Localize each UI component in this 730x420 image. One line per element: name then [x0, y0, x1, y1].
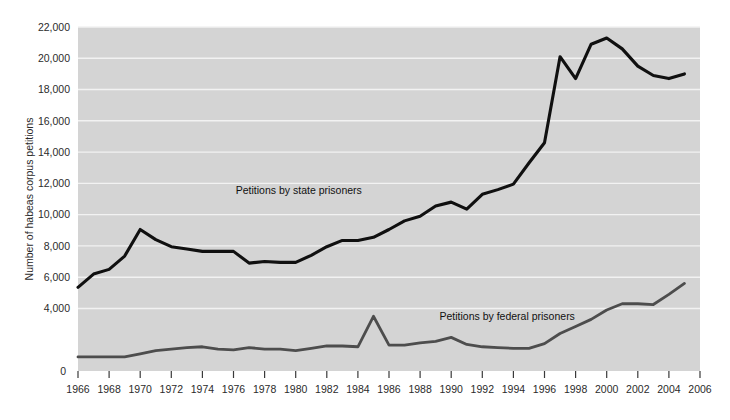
- y-tick-label-zero: 0: [60, 365, 66, 377]
- x-tick-label: 1966: [66, 383, 90, 395]
- line-chart: 4,0006,0008,00010,00012,00014,00016,0001…: [0, 0, 730, 420]
- y-tick-label: 18,000: [38, 83, 70, 95]
- y-axis-title: Number of habeas corpus petitions: [23, 118, 35, 281]
- y-axis-title: Number of habeas corpus petitions: [23, 118, 35, 281]
- x-tick-label: 1976: [222, 383, 246, 395]
- plot-area-background: [78, 27, 700, 371]
- x-tick-label: 1982: [315, 383, 339, 395]
- x-tick-label: 1992: [471, 383, 495, 395]
- x-tick-label: 1968: [97, 383, 121, 395]
- x-tick-label: 2006: [688, 383, 712, 395]
- x-tick-label: 1974: [191, 383, 215, 395]
- x-tick-label: 1984: [346, 383, 370, 395]
- series-label: Petitions by federal prisoners: [439, 310, 574, 322]
- y-tick-label: 12,000: [38, 177, 70, 189]
- x-tick-label: 1994: [502, 383, 526, 395]
- x-axis-ticks: [78, 371, 700, 378]
- x-tick-label: 1988: [408, 383, 432, 395]
- series-label: Petitions by state prisoners: [236, 184, 362, 196]
- x-tick-label: 1970: [129, 383, 153, 395]
- x-tick-label: 1990: [440, 383, 464, 395]
- x-tick-label: 2000: [595, 383, 619, 395]
- y-axis-zero-label: 0: [60, 365, 66, 377]
- x-tick-label: 1978: [253, 383, 277, 395]
- y-tick-label: 22,000: [38, 21, 70, 33]
- y-tick-label: 14,000: [38, 146, 70, 158]
- x-tick-label: 1998: [564, 383, 588, 395]
- x-tick-label: 1996: [533, 383, 557, 395]
- figure-container: 4,0006,0008,00010,00012,00014,00016,0001…: [0, 0, 730, 420]
- y-tick-label: 10,000: [38, 208, 70, 220]
- y-tick-label: 6,000: [44, 271, 70, 283]
- y-tick-label: 8,000: [44, 240, 70, 252]
- x-tick-label: 2002: [626, 383, 650, 395]
- x-axis-tick-labels: 1966196819701972197419761978198019821984…: [66, 383, 712, 395]
- x-tick-label: 1980: [284, 383, 308, 395]
- y-tick-label: 16,000: [38, 115, 70, 127]
- x-tick-label: 2004: [657, 383, 681, 395]
- y-tick-label: 20,000: [38, 52, 70, 64]
- x-tick-label: 1986: [377, 383, 401, 395]
- x-tick-label: 1972: [160, 383, 184, 395]
- y-tick-label: 4,000: [44, 302, 70, 314]
